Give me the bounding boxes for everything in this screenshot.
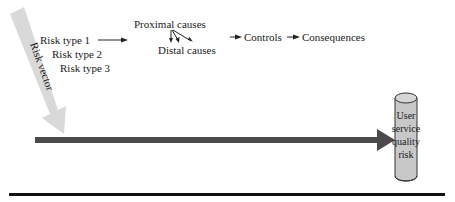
distal-causes-label: Distal causes: [158, 44, 216, 56]
proximal-causes-label: Proximal causes: [134, 18, 206, 30]
consequences-label: Consequences: [302, 31, 365, 43]
main-flow-arrow: [35, 129, 395, 151]
arrow-to-consequences: [287, 35, 300, 40]
risk-type-2: Risk type 2: [52, 48, 102, 60]
arrows-proximal-to-distal: [169, 30, 193, 43]
target-line-1: User: [383, 109, 429, 122]
risk-type-1: Risk type 1: [40, 34, 90, 46]
baseline-rule: [9, 193, 445, 196]
arrow-risk-to-proximal: [98, 38, 128, 43]
controls-label: Controls: [244, 31, 282, 43]
target-line-4: risk: [383, 148, 429, 161]
diagram-canvas: Risk vector: [0, 0, 455, 202]
target-label: User service quality risk: [383, 109, 429, 161]
target-line-3: quality: [383, 135, 429, 148]
arrow-to-controls: [230, 35, 242, 40]
risk-type-3: Risk type 3: [60, 62, 110, 74]
target-line-2: service: [383, 122, 429, 135]
